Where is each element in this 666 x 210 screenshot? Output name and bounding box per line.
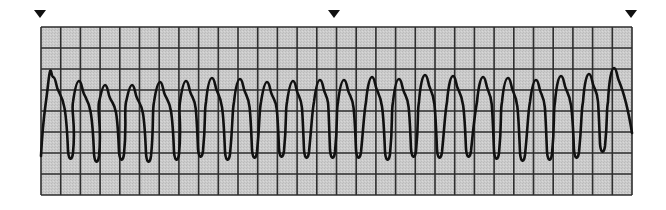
- time-marker-1-icon: [34, 10, 46, 18]
- ecg-strip: [0, 0, 666, 210]
- time-marker-2-icon: [328, 10, 340, 18]
- time-marker-3-icon: [625, 10, 637, 18]
